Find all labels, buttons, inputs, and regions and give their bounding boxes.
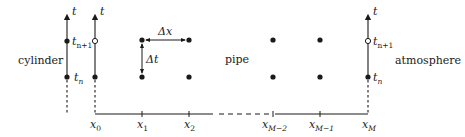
x0-node-tn [92,74,97,79]
x1-label: x1 [137,118,148,133]
xM-2-label: xM−2 [262,118,287,133]
x2-label: x2 [184,118,195,133]
x0-node-tn1-open [92,38,97,43]
xM-node-tn [365,74,370,79]
x0-label: x0 [90,118,101,133]
delta-x-label: Δx [157,25,173,38]
space-axis [95,111,368,117]
pipe-label: pipe [225,53,249,66]
cylinder-label: cylinder [18,54,64,67]
tn-label: tn [74,71,83,86]
right-tn1-label: tn+1 [373,35,393,50]
xM-1-label: xM−1 [309,118,334,133]
delta-t-label: Δt [145,53,159,66]
atmosphere-label: atmosphere [395,54,461,67]
cylinder-node-tn [64,74,69,79]
tn1-label: tn+1 [72,35,92,50]
cylinder-node-tn1 [64,38,69,43]
x0-t-label: t [100,5,105,18]
xM-node-tn1-open [365,38,370,43]
xM-label: xM [362,118,376,133]
delta-x-arrow: Δx [145,25,186,42]
atmosphere-t-label: t [373,5,378,18]
finite-difference-grid-diagram: cylinder pipe atmosphere t tn+1 tn t x0 … [0,0,465,137]
cylinder-t-label: t [72,5,77,18]
delta-t-arrow: Δt [140,43,159,74]
atmosphere-time-axis: t tn+1 tn [365,5,393,114]
x0-time-axis: t [92,5,105,113]
right-tn-label: tn [373,71,382,86]
cylinder-time-axis: t tn+1 tn [64,5,92,113]
